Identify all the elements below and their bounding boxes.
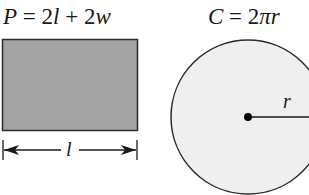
center-point — [244, 113, 252, 121]
rectangle-shape — [3, 40, 138, 131]
radius-label: r — [283, 91, 291, 111]
length-label: l — [66, 139, 72, 159]
geometry-figure — [0, 0, 309, 195]
